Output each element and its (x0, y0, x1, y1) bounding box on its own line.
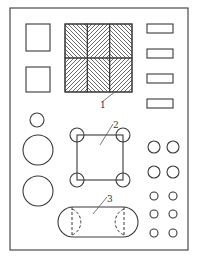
right-rectangle (147, 24, 173, 33)
hatched-grid (65, 24, 132, 92)
slot-outline (58, 207, 138, 237)
hole-circle (150, 210, 158, 218)
left-circle (23, 135, 53, 165)
callout-labels: 123 (93, 91, 119, 214)
leader-line (93, 197, 107, 214)
left-squares (26, 24, 50, 92)
left-circle (30, 113, 44, 127)
hole-circle (169, 192, 177, 200)
left-square (26, 24, 50, 51)
part-layout-diagram: 123 (0, 0, 199, 262)
square-2 (77, 135, 123, 180)
hatched-cell (65, 24, 87, 58)
hatched-cell (87, 24, 109, 58)
hole-circle (148, 166, 160, 178)
right-rectangle (147, 49, 173, 58)
hole-circle (148, 141, 160, 153)
hole-circle (150, 229, 158, 237)
left-circles (23, 113, 53, 206)
left-circle (23, 176, 53, 206)
left-square (26, 67, 50, 92)
hatched-cell (110, 58, 132, 92)
callout-label-3: 3 (107, 194, 113, 204)
hatched-cell (65, 58, 87, 92)
hole-circle (169, 229, 177, 237)
hole-circle (167, 166, 179, 178)
right-rectangle (147, 74, 173, 83)
callout-label-2: 2 (113, 120, 119, 130)
hatched-cell (110, 24, 132, 58)
right-circle-array (148, 141, 179, 237)
square-with-corner-circles (70, 128, 130, 187)
right-rectangles (147, 24, 173, 108)
right-rectangle (147, 99, 173, 108)
dashed-arc (115, 209, 124, 235)
hole-circle (169, 210, 177, 218)
hole-circle (167, 141, 179, 153)
callout-label-1: 1 (100, 100, 106, 110)
hole-circle (150, 192, 158, 200)
hatched-cell (87, 58, 109, 92)
dashed-arc (72, 209, 81, 235)
slot-with-dashed-circles (58, 207, 138, 237)
